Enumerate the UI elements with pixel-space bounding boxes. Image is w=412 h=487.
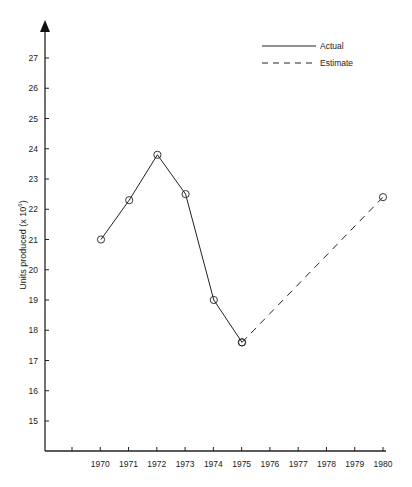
y-tick-label: 24	[29, 144, 39, 154]
y-tick-label: 17	[29, 356, 39, 366]
y-ticks: 15161718192021222324252627	[29, 53, 49, 426]
y-axis-label: Units produced (x 106)	[17, 200, 28, 289]
y-tick-label: 15	[29, 416, 39, 426]
y-tick-label: 16	[29, 386, 39, 396]
x-ticks: 1970197119721973197419751976197719781979…	[72, 447, 393, 469]
x-tick-label: 1976	[260, 459, 279, 469]
y-tick-label: 19	[29, 295, 39, 305]
y-tick-label: 27	[29, 53, 39, 63]
y-tick-label: 21	[29, 235, 39, 245]
x-tick-label: 1975	[232, 459, 251, 469]
legend-estimate-label: Estimate	[320, 58, 353, 68]
x-tick-label: 1974	[204, 459, 223, 469]
x-tick-label: 1979	[345, 459, 364, 469]
y-tick-label: 25	[29, 114, 39, 124]
series-line-actual	[101, 155, 242, 343]
line-chart: 15161718192021222324252627 1970197119721…	[0, 0, 412, 487]
x-tick-label: 1978	[317, 459, 336, 469]
x-tick-label: 1977	[289, 459, 308, 469]
legend: Actual Estimate	[262, 41, 353, 68]
data-point-marker	[379, 194, 386, 201]
y-tick-label: 20	[29, 265, 39, 275]
y-tick-label: 26	[29, 83, 39, 93]
x-tick-label: 1972	[147, 459, 166, 469]
y-tick-label: 23	[29, 174, 39, 184]
series-group	[97, 151, 386, 346]
y-tick-label: 18	[29, 325, 39, 335]
x-tick-label: 1970	[91, 459, 110, 469]
x-tick-label: 1973	[176, 459, 195, 469]
series-line-estimate	[242, 197, 383, 342]
x-tick-label: 1980	[374, 459, 393, 469]
y-tick-label: 22	[29, 204, 39, 214]
x-tick-label: 1971	[119, 459, 138, 469]
legend-actual-label: Actual	[320, 41, 344, 51]
y-axis-arrow-icon	[40, 20, 50, 32]
